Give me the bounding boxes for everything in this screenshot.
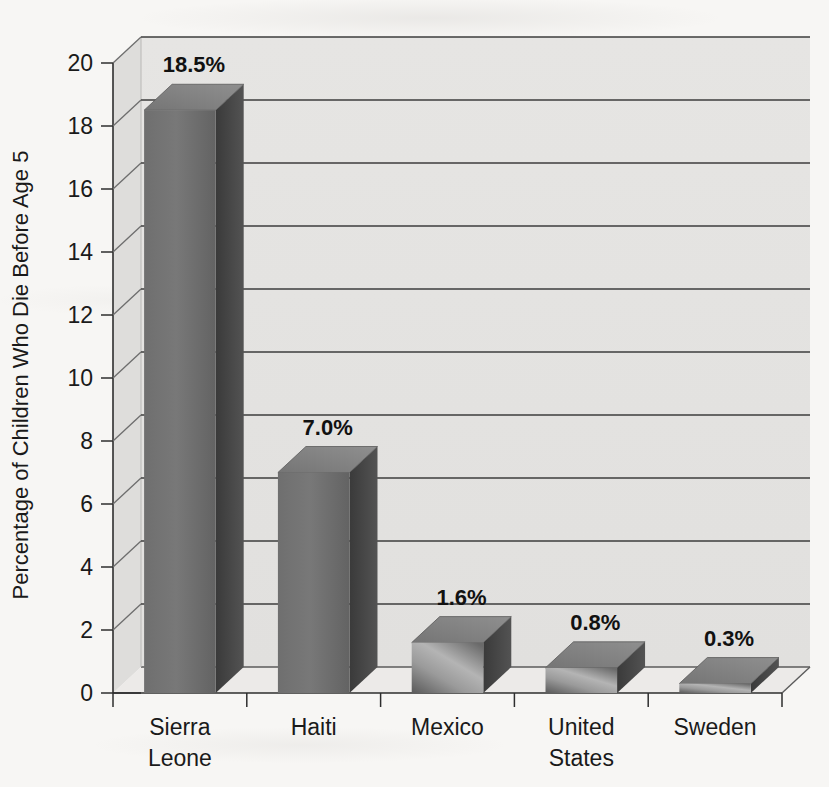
y-tick-label: 12 xyxy=(67,302,93,328)
x-category-label: Mexico xyxy=(411,714,484,740)
y-axis-title: Percentage of Children Who Die Before Ag… xyxy=(8,151,33,600)
x-category-label: Sweden xyxy=(674,714,757,740)
bar-front-face xyxy=(278,473,350,694)
y-tick-label: 20 xyxy=(67,50,93,76)
y-tick-label: 10 xyxy=(67,365,93,391)
bar-value-label: 18.5% xyxy=(163,52,225,77)
y-tick-label: 16 xyxy=(67,176,93,202)
bar-column[interactable] xyxy=(278,447,378,694)
x-category-label: Leone xyxy=(148,745,212,771)
bar-value-label: 1.6% xyxy=(436,585,486,610)
x-category-label: Sierra xyxy=(149,714,211,740)
bar-value-label: 0.8% xyxy=(570,610,620,635)
bar-front-face xyxy=(546,668,618,693)
bar-value-label: 7.0% xyxy=(303,415,353,440)
y-tick-label: 4 xyxy=(80,554,93,580)
x-tick-group xyxy=(113,693,782,707)
x-category-label: United xyxy=(548,714,614,740)
x-category-label: Haiti xyxy=(291,714,337,740)
category-label-group: SierraLeoneHaitiMexicoUnitedStatesSweden xyxy=(148,714,757,771)
y-tick-label: 2 xyxy=(80,617,93,643)
y-tick-label: 18 xyxy=(67,113,93,139)
y-tick-label: 0 xyxy=(80,680,93,706)
bar-chart: 02468101214161820 0.3%0.8%1.6%7.0%18.5% … xyxy=(0,0,829,787)
bar-side-face xyxy=(216,84,244,693)
bar-front-face xyxy=(679,684,751,693)
chart-page: 02468101214161820 0.3%0.8%1.6%7.0%18.5% … xyxy=(0,0,829,787)
bar-front-face xyxy=(144,110,216,693)
bar-value-label: 0.3% xyxy=(704,626,754,651)
y-tick-label: 14 xyxy=(67,239,93,265)
bar-column[interactable] xyxy=(144,84,244,693)
x-category-label: States xyxy=(549,745,614,771)
y-tick-label: 8 xyxy=(80,428,93,454)
bar-side-face xyxy=(349,447,377,694)
x-axis xyxy=(113,693,782,707)
y-tick-label: 6 xyxy=(80,491,93,517)
bar-front-face xyxy=(412,643,484,693)
